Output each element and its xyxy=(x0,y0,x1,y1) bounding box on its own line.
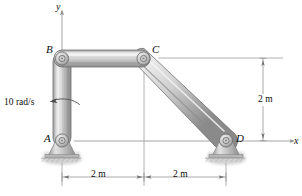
point-label-B: B xyxy=(46,44,53,55)
y-axis-label: y xyxy=(56,2,60,12)
pin-joint-B xyxy=(55,52,68,65)
dimension-label-bottom-right: 2 m xyxy=(173,170,188,180)
point-label-D: D xyxy=(236,133,244,144)
figure-container: B C A D y x 10 rad/s 2 m 2 m 2 m xyxy=(0,0,302,196)
x-axis-label: x xyxy=(294,136,298,146)
angular-velocity-label: 10 rad/s xyxy=(4,98,34,108)
point-label-A: A xyxy=(44,133,51,144)
dimension-label-vertical: 2 m xyxy=(256,94,275,106)
pin-joint-D xyxy=(219,134,232,147)
pin-joint-C xyxy=(137,52,150,65)
dimension-label-bottom-left: 2 m xyxy=(91,170,106,180)
point-label-C: C xyxy=(152,44,159,55)
pin-joint-A xyxy=(55,134,68,147)
